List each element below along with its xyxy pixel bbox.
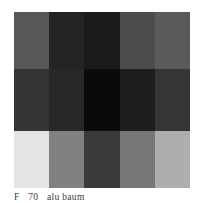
image-patch-r2c3 (84, 69, 119, 131)
image-patch-r2c2 (49, 69, 84, 131)
grayscale-block-image (14, 12, 190, 188)
image-patch-r3c1 (14, 131, 49, 188)
image-patch-r1c5 (155, 12, 190, 69)
figure-container: F 70 alu baum (0, 0, 211, 203)
caption-trailing-tokens: alu baum (47, 192, 85, 202)
caption-label-token: F (14, 192, 20, 202)
image-patch-r1c2 (49, 12, 84, 69)
image-patch-r3c2 (49, 131, 84, 188)
image-patch-r1c1 (14, 12, 49, 69)
image-patch-r2c4 (120, 69, 155, 131)
image-patch-r2c1 (14, 69, 49, 131)
image-patch-r3c4 (120, 131, 155, 188)
image-patch-r2c5 (155, 69, 190, 131)
figure-caption: F 70 alu baum (14, 192, 204, 203)
image-patch-r3c5 (155, 131, 190, 188)
image-patch-r1c4 (120, 12, 155, 69)
image-patch-r3c3 (84, 131, 119, 188)
image-patch-r1c3 (84, 12, 119, 69)
caption-number-token: 70 (28, 192, 38, 202)
